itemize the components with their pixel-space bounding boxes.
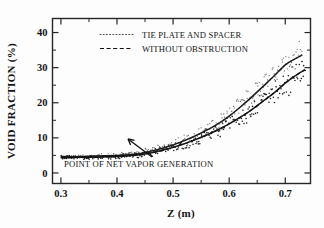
data-point xyxy=(272,67,273,68)
data-point xyxy=(284,70,285,71)
data-point xyxy=(299,41,300,42)
data-point xyxy=(272,69,273,70)
data-point xyxy=(157,153,159,155)
data-point xyxy=(108,153,109,154)
data-point xyxy=(231,111,232,112)
data-point xyxy=(297,78,299,80)
data-point xyxy=(253,113,255,115)
data-point xyxy=(242,120,244,122)
data-point xyxy=(184,147,186,149)
x-axis-title: Z (m) xyxy=(167,207,195,220)
data-point xyxy=(186,147,188,149)
data-point xyxy=(157,145,158,146)
data-point xyxy=(131,151,132,152)
data-point xyxy=(209,123,210,124)
data-point xyxy=(261,99,263,101)
data-point xyxy=(235,121,237,123)
data-point xyxy=(244,100,245,101)
data-point xyxy=(283,57,284,58)
data-point xyxy=(236,100,237,101)
data-point xyxy=(279,85,281,87)
data-point xyxy=(254,100,255,101)
data-point xyxy=(250,116,252,118)
y-axis-ticks xyxy=(53,33,311,173)
data-point xyxy=(260,91,261,92)
y-axis-tick-labels: 010203040 xyxy=(37,27,48,178)
annotation-label: POINT OF NET VAPOR GENERATION xyxy=(64,159,214,169)
data-point xyxy=(256,83,257,84)
data-point xyxy=(294,80,296,82)
data-point xyxy=(237,99,238,100)
data-point xyxy=(247,108,249,110)
data-point xyxy=(247,98,248,99)
data-point xyxy=(297,49,298,50)
x-tick-label-0.4: 0.4 xyxy=(110,188,124,199)
y-tick-label-0: 0 xyxy=(42,168,47,179)
data-point xyxy=(132,156,134,158)
data-point xyxy=(165,151,167,153)
data-point xyxy=(192,144,194,146)
data-point xyxy=(213,128,215,130)
data-point xyxy=(288,75,290,77)
data-point xyxy=(274,79,275,80)
data-point xyxy=(175,139,176,140)
data-point xyxy=(270,98,272,100)
void-fraction-chart: 0.30.40.50.60.7 010203040 TIE PLATE AND … xyxy=(0,0,324,228)
data-point xyxy=(244,104,245,105)
data-point xyxy=(233,106,234,107)
data-point xyxy=(128,152,130,154)
data-point xyxy=(298,54,299,55)
data-point xyxy=(78,155,79,156)
data-point xyxy=(259,95,261,97)
data-point xyxy=(207,132,209,134)
data-point xyxy=(262,83,263,84)
data-point xyxy=(301,50,302,51)
data-point xyxy=(287,68,288,69)
data-point xyxy=(275,80,277,82)
data-point xyxy=(181,147,183,149)
data-point xyxy=(264,74,265,75)
data-point xyxy=(98,154,99,155)
data-point xyxy=(164,144,165,145)
data-point xyxy=(225,120,227,122)
data-point xyxy=(251,113,253,115)
data-point xyxy=(221,117,222,118)
data-point xyxy=(257,94,258,95)
data-point xyxy=(283,92,285,94)
data-point xyxy=(188,135,189,136)
data-point xyxy=(243,123,245,125)
data-point xyxy=(259,82,260,83)
data-point xyxy=(254,101,256,103)
data-point xyxy=(121,152,122,153)
data-point xyxy=(113,153,114,154)
data-point xyxy=(216,122,217,123)
data-point xyxy=(255,82,256,83)
data-point xyxy=(302,76,304,78)
data-point xyxy=(282,59,283,60)
scatter-points-layer xyxy=(60,41,306,160)
data-point xyxy=(184,138,185,139)
data-point xyxy=(296,77,298,79)
data-point xyxy=(292,55,293,56)
data-point xyxy=(177,148,179,150)
data-point xyxy=(186,145,188,147)
data-point xyxy=(267,79,268,80)
data-point xyxy=(226,110,227,111)
data-point xyxy=(194,133,195,134)
data-point xyxy=(230,117,232,119)
data-point xyxy=(229,108,230,109)
data-point xyxy=(300,80,302,82)
data-point xyxy=(234,107,235,108)
data-point xyxy=(152,149,153,150)
data-point xyxy=(301,78,303,80)
data-point xyxy=(273,96,275,98)
data-point xyxy=(291,66,293,68)
data-point xyxy=(178,137,179,138)
data-point xyxy=(241,118,243,120)
y-tick-label-40: 40 xyxy=(37,27,48,38)
data-point xyxy=(246,122,248,124)
data-point xyxy=(171,142,172,143)
data-point xyxy=(227,112,228,113)
data-point xyxy=(198,143,200,145)
data-point xyxy=(126,153,127,154)
